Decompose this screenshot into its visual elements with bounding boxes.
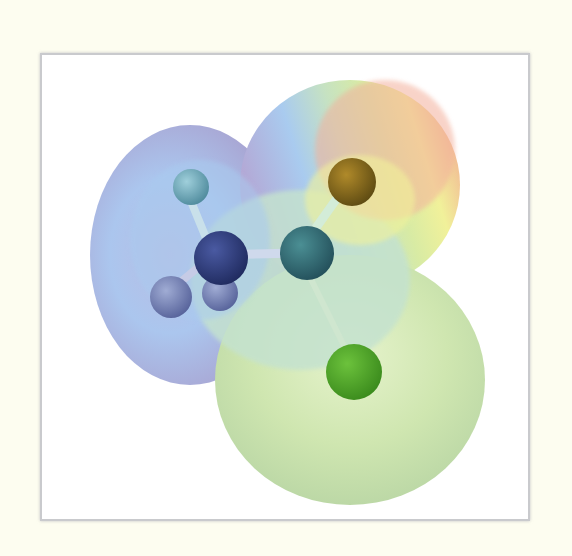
molecule-figure <box>0 0 572 556</box>
hydrogen-atom-top <box>173 169 209 205</box>
methyl-carbon-atom <box>194 231 248 285</box>
potential-surface <box>90 80 485 505</box>
chlorine-atom <box>326 344 382 400</box>
oxygen-atom <box>328 158 376 206</box>
carbonyl-carbon-atom <box>280 226 334 280</box>
hydrogen-atom-bottom-left <box>150 276 192 318</box>
